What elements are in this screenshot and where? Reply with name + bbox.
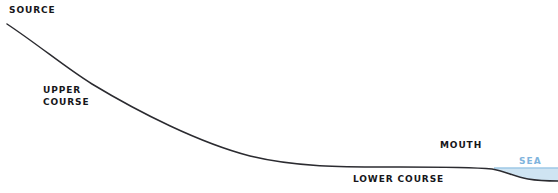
label-sea: SEA [519,155,542,167]
label-source: SOURCE [9,4,56,16]
label-lower-course: LOWER COURSE [353,173,444,185]
label-upper-course-line1: UPPER [43,85,81,95]
river-profile-diagram: SOURCE UPPERCOURSE LOWER COURSE MOUTH SE… [0,0,558,193]
river-profile-line [7,24,558,181]
label-upper-course: UPPERCOURSE [43,84,90,108]
label-mouth: MOUTH [440,139,482,151]
label-upper-course-line2: COURSE [43,97,90,107]
